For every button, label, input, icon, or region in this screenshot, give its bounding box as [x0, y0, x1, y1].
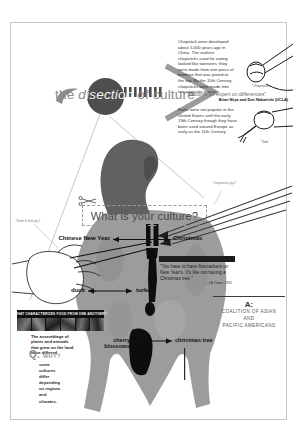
comparison-left-chinese-new-year: Chinese New Year [48, 235, 110, 241]
question-why-label: WHY? [43, 353, 61, 359]
expert-quote-attribution: Brian Niiya and Don Nakanishi (UCLA) [193, 98, 288, 102]
answer-block: A: COALITION OF ASIAN AND PACIFIC AMERIC… [213, 296, 285, 330]
title-pre: the [55, 87, 78, 102]
food-section-header: WHAT CHARACTERIZES FOOD FROM ONE ANOTHER… [14, 312, 106, 316]
page-title: the disection of culture [55, 87, 195, 102]
comparison-left-cherry-blossoms: cherry blossoms [90, 337, 130, 349]
answer-line-3: PACIFIC AMERICANS [213, 323, 285, 330]
culture-question-box: What is your culture? [82, 205, 207, 226]
answer-line-2: AND [213, 316, 285, 323]
micro-label-knife-fork: *knife & fork pg 2 [10, 219, 46, 223]
photo-thumbnail [76, 318, 90, 331]
micro-label-chopsticks: *chopsticks pg 2 [203, 181, 245, 185]
culture-question-label: What is your culture? [91, 210, 199, 222]
answer-divider [213, 296, 285, 297]
comparison-right-turkey: turkey [136, 287, 176, 293]
firecrackers-quote: "You have to have firecrackers on New Ye… [160, 264, 230, 282]
question-q-label: Q: [29, 349, 40, 360]
comparison-right-christmas: Christmas [173, 235, 223, 241]
photo-thumbnail [32, 318, 46, 331]
expert-quote: "become an expert on differences" [187, 91, 275, 97]
answer-a-label: A: [213, 300, 285, 309]
chopsticks-caption: *chopsticks [252, 84, 270, 88]
photo-thumbnail [46, 318, 60, 331]
food-section-header-bar: WHAT CHARACTERIZES FOOD FROM ONE ANOTHER… [17, 310, 104, 318]
fork-caption: *fork [261, 140, 268, 144]
chopsticks-history-note: Chopstick were developed about 5,000 yea… [178, 39, 235, 95]
culture-dissection-poster: the disection of culture Chopstick were … [0, 0, 296, 442]
comparison-right-christmas-tree: christmas tree [175, 337, 219, 343]
photo-strip [17, 318, 104, 331]
firecrackers-quote-attribution: —LA Times, 1992 [160, 281, 232, 285]
forks-history-note: Forks were not popular in the United Sta… [178, 107, 240, 135]
photo-thumbnail [90, 318, 104, 331]
question-answer-text: some cultures differ depending on region… [39, 362, 65, 405]
title-emph-prefix: d [78, 87, 86, 102]
answer-line-1: COALITION OF ASIAN [213, 309, 285, 316]
title-emph-knockout: isection [86, 87, 133, 102]
redaction-bar [159, 256, 235, 262]
photo-thumbnail [17, 318, 31, 331]
photo-thumbnail [61, 318, 75, 331]
comparison-left-duck: duck [50, 287, 85, 293]
